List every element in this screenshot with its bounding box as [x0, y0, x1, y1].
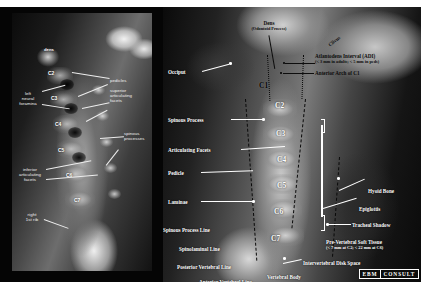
- anterior-arch-c1-label: Anterior Arch of C1: [315, 70, 360, 76]
- oblique-right-first-rib-label: right 1st rib: [20, 212, 44, 222]
- oblique-level-c2: C2: [48, 70, 54, 76]
- oblique-level-c7: C7: [74, 197, 80, 203]
- oblique-left-neural-foramina-label: left neural foramina: [14, 91, 42, 107]
- adi-label: Atlantodens Interval (ADI) (< 3 mm in ad…: [315, 53, 379, 65]
- hyoid-bone-label: Hyoid Bone: [368, 188, 394, 194]
- lateral-level-c3: C3: [276, 129, 285, 138]
- epiglottis-label: Epiglottis: [359, 206, 380, 212]
- prevertebral-span-line: [321, 125, 323, 217]
- leader-dot: [337, 177, 340, 180]
- spinous-process-label: Spinous Process: [168, 117, 204, 123]
- oblique-pedicles-label: pedicles: [110, 78, 127, 83]
- lateral-level-c7: C7: [271, 234, 280, 243]
- oblique-dens-label: dens: [44, 47, 54, 52]
- tracheal-shadow-label: Tracheal Shadow: [352, 222, 390, 228]
- lateral-level-c4: C4: [277, 155, 286, 164]
- spinolaminal-line-label: Spinolaminal Line: [179, 246, 220, 252]
- vertebral-body-label: Vertebral Body: [267, 274, 301, 280]
- leader-line: [231, 119, 263, 120]
- logo-ebm-text: EBM: [360, 270, 380, 278]
- oblique-inferior-facets-label: inferior articulating facets: [14, 167, 46, 183]
- leader-dot: [326, 223, 329, 226]
- lateral-level-c1: C1: [259, 81, 268, 90]
- leader-line: [283, 73, 314, 74]
- oblique-spinous-shape: [100, 137, 113, 147]
- leader-dot: [262, 118, 265, 121]
- pedicle-label: Pedicle: [168, 170, 184, 176]
- intervertebral-disk-space-label: Intervertebral Disk Space: [303, 260, 360, 266]
- leader-dot: [229, 62, 232, 65]
- leader-line: [329, 224, 351, 225]
- oblique-level-c5: C5: [58, 147, 64, 153]
- lateral-vertebra-shape: [266, 199, 302, 220]
- leader-dot: [283, 257, 286, 260]
- prevertebral-soft-tissue-label: Pre-Vertebral Soft Tissue (< 7 mm at C2;…: [326, 239, 383, 251]
- lateral-level-c6: C6: [274, 207, 283, 216]
- occiput-label: Occiput: [168, 69, 186, 75]
- lateral-level-c5: C5: [277, 181, 286, 190]
- prevertebral-bracket-c6: [321, 215, 325, 231]
- ebm-consult-logo: EBM CONSULT: [359, 269, 419, 279]
- leader-line: [201, 201, 253, 202]
- oblique-level-c4: C4: [55, 121, 61, 127]
- oblique-level-c3: C3: [51, 95, 57, 101]
- anterior-vertebral-line-label: Anterior Vertebral Line: [199, 279, 252, 282]
- dens-label: Dens (Odontoid Process): [223, 20, 315, 32]
- oblique-superior-facets-label: superior articulating facets: [110, 88, 132, 104]
- lateral-view-panel: Clivus Dens (Odontoid Process) Atlantode…: [163, 7, 421, 282]
- articulating-facets-label: Articulating Facets: [168, 147, 211, 153]
- oblique-view-panel: C2 C3 C4 C5 C6 C7 dens pedicles superior…: [0, 7, 163, 282]
- oblique-spinous-shape: [108, 189, 121, 199]
- leader-dot: [252, 200, 255, 203]
- posterior-vertebral-line-label: Posterior Vertebral Line: [177, 264, 231, 270]
- radiograph-figure: C2 C3 C4 C5 C6 C7 dens pedicles superior…: [0, 7, 421, 282]
- laminae-label: Laminae: [168, 199, 188, 205]
- oblique-foramen-shape: [68, 127, 82, 138]
- logo-consult-text: CONSULT: [380, 270, 418, 278]
- lateral-level-c2: C2: [275, 101, 284, 110]
- leader-line: [285, 63, 315, 64]
- oblique-spinous-processes-label: spinous processes: [124, 131, 144, 141]
- spinous-process-line-label: Spinous Process Line: [163, 227, 210, 233]
